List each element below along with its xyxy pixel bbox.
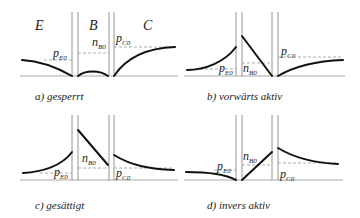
bjt-minority-carrier-diagram: E B C pE0 nB0 pC0 a) gesperrt pE0 nB0 pC… [0,0,360,218]
label-nb0: nB0 [92,35,106,51]
panel-d: pE0 nB0 pC0 d) invers aktiv [184,115,343,212]
collector-curve [278,148,338,164]
panel-b: pE0 nB0 pC0 b) vorwärts aktiv [184,12,345,103]
label-pc0: pC0 [279,167,295,183]
label-pc0: pC0 [115,166,131,182]
collector-curve [278,60,343,76]
emitter-curve [23,152,72,173]
caption-a: a) gesperrt [35,90,85,103]
collector-curve [114,47,175,76]
caption-c: c) gesättigt [35,199,85,212]
label-pc0: pC0 [115,31,131,47]
caption-b: b) vorwärts aktiv [207,90,282,103]
panel-a: E B C pE0 nB0 pC0 a) gesperrt [20,12,178,103]
label-pc0: pC0 [280,44,296,60]
label-pe0: pE0 [216,159,231,175]
label-pe0: pE0 [53,165,68,181]
region-label-e: E [34,18,44,33]
label-nb0: nB0 [243,149,257,165]
region-label-c: C [143,18,153,33]
region-label-b: B [89,18,98,33]
label-pe0: pE0 [52,46,67,62]
caption-d: d) invers aktiv [207,199,270,212]
base-curve [78,72,108,77]
label-pe0: pE0 [218,61,233,77]
label-nb0: nB0 [82,151,96,167]
emitter-curve [187,47,236,70]
label-nb0: nB0 [243,61,257,77]
emitter-curve [22,60,72,76]
panel-c: pE0 nB0 pC0 c) gesättigt [20,115,178,212]
